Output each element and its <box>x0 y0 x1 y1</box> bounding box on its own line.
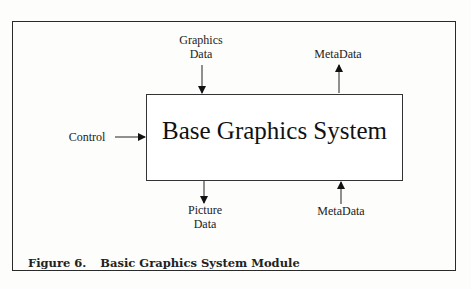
figure-caption-text: Basic Graphics System Module <box>100 256 299 270</box>
figure-number: Figure 6. <box>28 256 86 270</box>
arrows-layer <box>0 0 471 289</box>
figure-caption: Figure 6. Basic Graphics System Module <box>28 256 300 270</box>
